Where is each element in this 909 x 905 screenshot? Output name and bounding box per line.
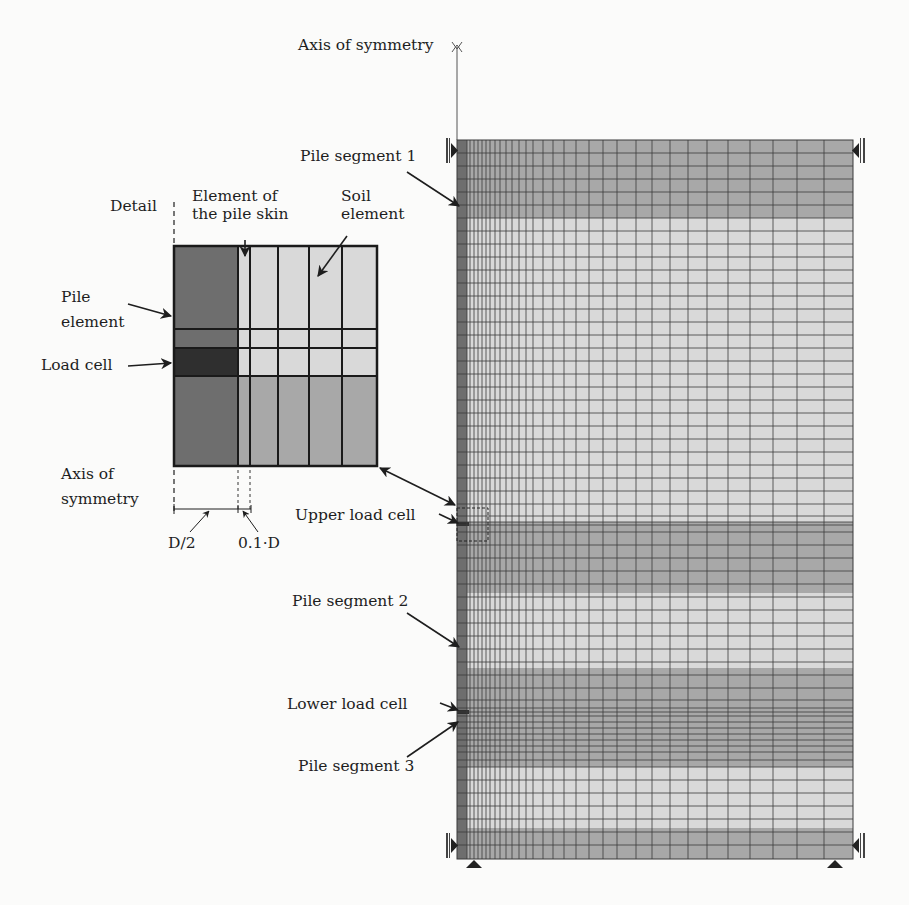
dimension-line bbox=[174, 504, 258, 532]
axis-of-symmetry-detail-line1: Axis of bbox=[61, 465, 114, 483]
finite-element-mesh bbox=[457, 140, 853, 859]
right-bottom-bearing-icon bbox=[852, 833, 865, 858]
left-top-bearing-icon bbox=[446, 138, 458, 163]
axis-of-symmetry-label: Axis of symmetry bbox=[298, 36, 433, 54]
lower-load-cell-label: Lower load cell bbox=[287, 695, 408, 713]
pile-segment-1-label: Pile segment 1 bbox=[300, 147, 416, 165]
left-bottom-bearing-icon bbox=[446, 833, 458, 858]
pile-element-label-line2: element bbox=[61, 313, 124, 331]
axis-of-symmetry-detail-line2: symmetry bbox=[61, 490, 139, 508]
detail-label: Detail bbox=[110, 197, 157, 215]
axis-of-symmetry-line bbox=[452, 42, 462, 140]
soil-element-label-line2: element bbox=[341, 205, 404, 223]
pile-mesh-diagram bbox=[0, 0, 909, 905]
pile-segment-3-label: Pile segment 3 bbox=[298, 757, 414, 775]
load-cell-label: Load cell bbox=[41, 356, 112, 374]
right-top-bearing-icon bbox=[852, 138, 865, 163]
pile-segment-2-label: Pile segment 2 bbox=[292, 592, 408, 610]
soil-element-label-line1: Soil bbox=[341, 187, 371, 205]
d-half-label: D/2 bbox=[168, 534, 196, 552]
upper-load-cell-label: Upper load cell bbox=[295, 506, 416, 524]
left-support-triangle-icon bbox=[466, 860, 482, 868]
pile-skin-label-line2: the pile skin bbox=[192, 205, 289, 223]
right-support-triangle-icon bbox=[827, 860, 843, 868]
detail-element-box bbox=[174, 246, 377, 466]
pile-skin-label-line1: Element of bbox=[192, 187, 278, 205]
pile-element-label-line1: Pile bbox=[61, 288, 91, 306]
d-tenth-label: 0.1·D bbox=[238, 534, 280, 552]
